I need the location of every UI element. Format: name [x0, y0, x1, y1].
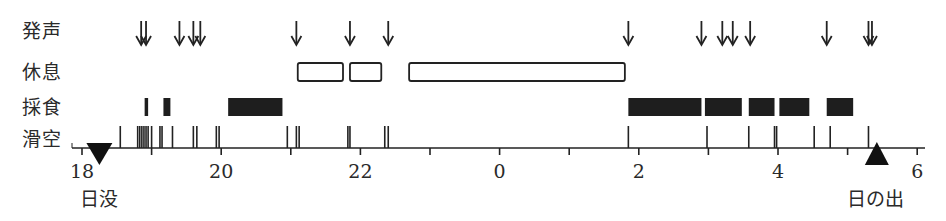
feeding-bar [749, 98, 775, 116]
axis-tick-label: 20 [209, 160, 233, 182]
down-arrow-icon [696, 21, 706, 45]
rest-bar [298, 63, 343, 81]
sunrise-label: 日の出 [847, 188, 904, 210]
gliding-ticks [120, 126, 868, 148]
axis-tick-label: 4 [772, 160, 784, 182]
down-arrow-icon [717, 21, 727, 45]
axis-tick-label: 2 [633, 160, 645, 182]
feeding-bar [779, 98, 809, 116]
down-arrow-icon [383, 21, 393, 45]
down-arrow-icon [745, 21, 755, 45]
feeding-bar [145, 98, 148, 116]
axis-tick-label: 18 [70, 160, 94, 182]
down-arrow-icon [728, 21, 738, 45]
axis-tick-label: 0 [494, 160, 506, 182]
down-arrow-icon [174, 21, 184, 45]
down-arrow-icon [291, 21, 301, 45]
down-arrow-icon [822, 21, 832, 45]
feeding-bar [628, 98, 701, 116]
down-arrow-icon [188, 21, 198, 45]
feeding-bar [163, 98, 170, 116]
feeding-bar [827, 98, 853, 116]
rest-bar [350, 63, 381, 81]
down-arrow-icon [623, 21, 633, 45]
activity-timeline-chart [0, 0, 946, 221]
down-arrow-icon [345, 21, 355, 45]
time-axis [72, 143, 925, 155]
sun-markers [86, 142, 888, 165]
rest-bars [298, 63, 625, 81]
feeding-bar [228, 98, 282, 116]
vocalization-arrows [136, 21, 877, 45]
sunset-label: 日没 [80, 188, 118, 210]
rest-bar [409, 63, 625, 81]
feeding-bars [145, 98, 854, 116]
feeding-bar [705, 98, 742, 116]
down-arrow-icon [195, 21, 205, 45]
axis-tick-label: 22 [348, 160, 372, 182]
axis-tick-label: 6 [911, 160, 923, 182]
